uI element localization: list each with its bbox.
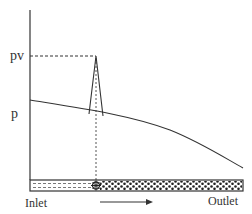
- channel-bar: [30, 180, 243, 191]
- pressure-diagram: pv p Inlet Outlet: [0, 0, 252, 214]
- outlet-label: Outlet: [208, 194, 239, 208]
- flow-arrow-icon: [100, 199, 153, 205]
- inlet-label: Inlet: [25, 196, 48, 210]
- pv-label: pv: [10, 48, 24, 63]
- collapse-star-icon: [91, 181, 101, 191]
- pressure-curve: [30, 100, 243, 168]
- bubbly-region: [100, 181, 242, 190]
- p-label: p: [11, 106, 18, 121]
